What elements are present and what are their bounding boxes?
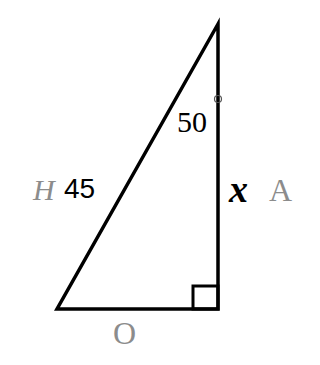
opposite-side-label: O: [113, 317, 136, 349]
right-angle-marker: [193, 286, 218, 309]
adjacent-variable: x: [229, 170, 248, 208]
angle-label: 50: [177, 107, 207, 137]
adjacent-side-label: A: [269, 174, 292, 206]
hypotenuse-value: 45: [64, 175, 95, 203]
hypotenuse-side-label: H: [33, 175, 55, 205]
right-triangle: [57, 24, 218, 309]
